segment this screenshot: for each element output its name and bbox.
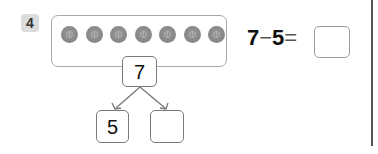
equation: 7−5=: [247, 25, 297, 51]
equation-left: 7: [247, 25, 259, 50]
equation-answer-box[interactable]: [314, 26, 350, 58]
equation-right: 5: [272, 25, 284, 50]
number-bond-part-answer-box[interactable]: [150, 110, 184, 143]
minus-sign: −: [259, 25, 272, 50]
number-bond-arrows: [0, 0, 378, 154]
number-bond-part-known: 5: [96, 110, 129, 143]
equals-sign: =: [284, 25, 297, 50]
column-divider: [371, 0, 373, 146]
number-bond-total: 7: [122, 56, 157, 87]
